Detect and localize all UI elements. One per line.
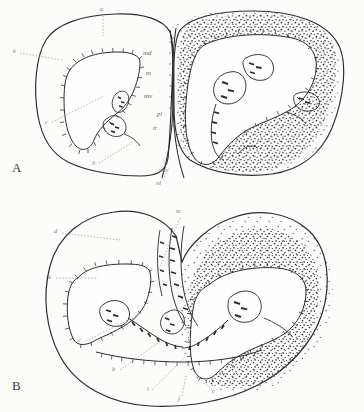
label-a-b: b [92,160,95,167]
figure-plate: a k md m mv c pl tr b um nl A [0,0,364,412]
panel-a: a k md m mv c pl tr b um nl A [0,0,364,200]
panel-a-letter: A [12,160,22,176]
label-a-mv: mv [144,93,152,100]
label-b-l: l [147,386,149,393]
label-b-b: b [112,366,115,373]
label-a-a: a [100,6,103,13]
label-a-c: c [45,119,48,126]
label-b-m: m [176,208,181,215]
label-a-k: k [13,48,16,55]
panel-b-left-lumen [67,264,151,345]
label-a-nl: nl [156,180,161,187]
label-a-tr: tr [153,125,157,132]
label-b-k: k [48,274,51,281]
label-a-md: md [143,50,152,57]
panel-b-letter: B [12,378,21,394]
label-b-e: e [212,388,215,395]
label-a-pl: pl [157,111,162,118]
label-a-m: m [146,70,151,77]
label-b-f: f [178,396,180,403]
label-b-c: c [78,337,81,344]
label-a-um: um [159,167,167,174]
panel-b: m d k c b l f e B [0,200,364,412]
panel-a-drawing [0,0,364,200]
label-b-d: d [54,228,57,235]
